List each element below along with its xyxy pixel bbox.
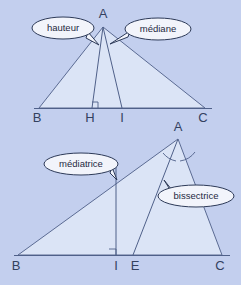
figure-page: A B H I C hauteur médiane (0, 0, 241, 285)
bottom-vertex-label-b: B (12, 258, 21, 273)
callout-hauteur-label: hauteur (47, 22, 79, 33)
top-vertex-label-c: C (198, 110, 207, 125)
bottom-vertex-label-a: A (174, 119, 183, 134)
bottom-vertex-label-i: I (114, 258, 118, 273)
callout-bissectrice-label: bissectrice (174, 190, 219, 201)
top-vertex-label-i: I (120, 110, 124, 125)
bottom-vertex-label-e: E (131, 258, 140, 273)
callout-hauteur[interactable]: hauteur (32, 17, 99, 45)
callout-mediane[interactable]: médiane (110, 18, 191, 44)
callout-mediatrice-label: médiatrice (59, 158, 103, 169)
top-vertex-label-h: H (85, 110, 94, 125)
top-vertex-label-a: A (99, 6, 108, 21)
callout-mediatrice[interactable]: médiatrice (44, 153, 118, 180)
top-vertex-label-b: B (33, 110, 42, 125)
bottom-vertex-label-c: C (215, 258, 224, 273)
geometry-figure: A B H I C hauteur médiane (0, 0, 241, 285)
callout-mediane-label: médiane (140, 23, 176, 34)
top-diagram: A B H I C hauteur médiane (32, 6, 212, 125)
bottom-diagram: A B I E C médiatrice bissectrice (12, 119, 234, 273)
